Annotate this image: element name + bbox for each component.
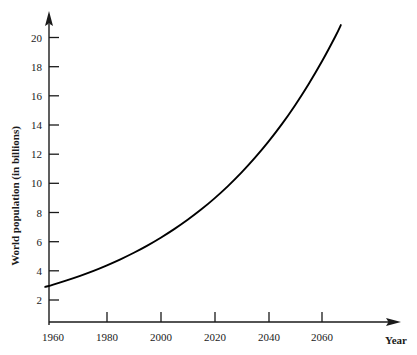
x-tick-label-2060: 2060 bbox=[311, 331, 334, 343]
x-tick-label-2040: 2040 bbox=[258, 331, 281, 343]
population-growth-curve bbox=[45, 25, 341, 287]
y-axis-arrow-icon bbox=[45, 11, 53, 26]
x-tick-marks bbox=[107, 312, 322, 322]
x-axis-title: Year bbox=[385, 334, 407, 346]
x-tick-label-1980: 1980 bbox=[96, 331, 119, 343]
y-tick-marks bbox=[49, 38, 59, 301]
x-tick-label-2000: 2000 bbox=[150, 331, 173, 343]
y-tick-label-6: 6 bbox=[37, 236, 43, 248]
y-tick-label-16: 16 bbox=[31, 90, 43, 102]
y-tick-label-10: 10 bbox=[31, 177, 43, 189]
x-tick-label-2020: 2020 bbox=[204, 331, 227, 343]
x-tick-label-1960: 1960 bbox=[42, 331, 65, 343]
x-tick-labels: 1960 1980 2000 2020 2040 2060 bbox=[42, 331, 334, 343]
y-axis-group bbox=[45, 11, 53, 325]
y-tick-label-18: 18 bbox=[31, 61, 43, 73]
y-axis-title: World population (in billions) bbox=[9, 126, 22, 266]
y-tick-label-14: 14 bbox=[31, 119, 43, 131]
y-tick-label-4: 4 bbox=[37, 265, 43, 277]
y-tick-label-20: 20 bbox=[31, 32, 43, 44]
world-population-chart: 20 18 16 14 12 10 8 6 4 2 World populati… bbox=[0, 0, 417, 355]
figure-container: 20 18 16 14 12 10 8 6 4 2 World populati… bbox=[0, 0, 417, 355]
y-tick-label-8: 8 bbox=[37, 207, 43, 219]
y-tick-labels: 20 18 16 14 12 10 8 6 4 2 bbox=[31, 32, 43, 307]
y-tick-label-12: 12 bbox=[31, 148, 42, 160]
x-axis-group bbox=[49, 318, 401, 326]
y-tick-label-2: 2 bbox=[37, 294, 43, 306]
